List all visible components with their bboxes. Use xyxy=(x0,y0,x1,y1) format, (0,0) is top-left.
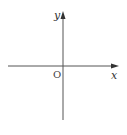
y-axis-arrow-icon xyxy=(61,11,66,19)
x-axis-arrow-icon xyxy=(111,64,119,69)
y-axis-label: y xyxy=(53,9,61,22)
origin-label: O xyxy=(53,69,61,80)
x-axis-label: x xyxy=(111,69,118,82)
coordinate-plane: y x O xyxy=(0,0,127,135)
